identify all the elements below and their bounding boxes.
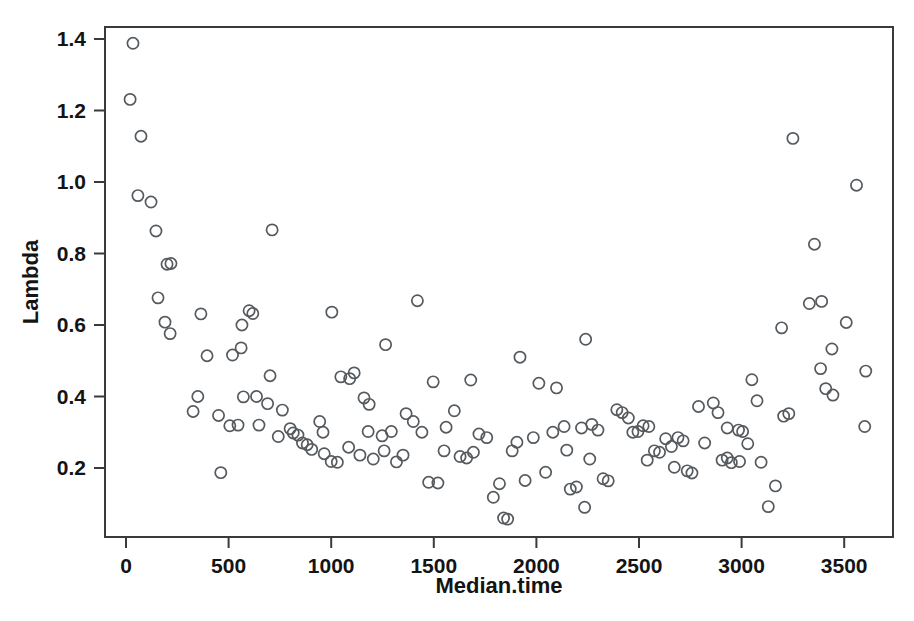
data-point <box>368 453 379 464</box>
data-point <box>533 378 544 389</box>
data-point <box>693 401 704 412</box>
data-point <box>826 343 837 354</box>
y-tick-label: 0.2 <box>57 456 86 479</box>
data-point <box>787 133 798 144</box>
data-point <box>277 404 288 415</box>
data-point <box>145 196 156 207</box>
y-tick-label: 0.8 <box>57 242 87 265</box>
y-axis-title: Lambda <box>18 239 43 324</box>
data-point <box>273 431 284 442</box>
x-tick-label: 3000 <box>718 554 765 577</box>
data-point <box>232 420 243 431</box>
y-axis-tick-labels: 0.20.40.60.81.01.21.4 <box>57 27 87 479</box>
data-point <box>267 224 278 235</box>
data-point <box>213 410 224 421</box>
data-point <box>391 456 402 467</box>
data-point <box>712 407 723 418</box>
y-tick-label: 0.4 <box>57 385 87 408</box>
data-point <box>547 427 558 438</box>
data-point <box>195 308 206 319</box>
data-point <box>380 339 391 350</box>
data-point <box>132 190 143 201</box>
data-point <box>755 457 766 468</box>
x-tick-label: 1000 <box>308 554 355 577</box>
data-point <box>317 427 328 438</box>
x-tick-label: 0 <box>120 554 132 577</box>
data-point <box>660 433 671 444</box>
data-point <box>251 391 262 402</box>
data-point <box>238 391 249 402</box>
data-point <box>264 370 275 381</box>
data-point <box>804 298 815 309</box>
data-point <box>746 374 757 385</box>
data-point <box>150 225 161 236</box>
data-point <box>363 426 374 437</box>
x-tick-label: 2500 <box>616 554 663 577</box>
data-point <box>159 317 170 328</box>
y-tick-label: 1.2 <box>57 99 86 122</box>
data-point <box>386 426 397 437</box>
data-point <box>127 38 138 49</box>
data-point <box>152 292 163 303</box>
x-tick-label: 3500 <box>821 554 868 577</box>
plot-frame <box>105 27 893 537</box>
data-point <box>528 432 539 443</box>
data-point <box>135 131 146 142</box>
data-point <box>438 445 449 456</box>
data-point <box>763 501 774 512</box>
scatter-plot-figure: 0500100015002000250030003500 0.20.40.60.… <box>0 0 914 621</box>
data-point <box>561 445 572 456</box>
data-point <box>699 437 710 448</box>
data-point <box>494 478 505 489</box>
data-point <box>776 322 787 333</box>
data-point <box>244 305 255 316</box>
data-point <box>584 453 595 464</box>
data-point <box>669 462 680 473</box>
x-tick-label: 500 <box>211 554 246 577</box>
data-point <box>488 492 499 503</box>
data-point <box>188 406 199 417</box>
data-point <box>326 307 337 318</box>
data-point <box>809 239 820 250</box>
data-point <box>580 334 591 345</box>
data-point <box>511 437 522 448</box>
data-point <box>192 391 203 402</box>
data-point <box>734 456 745 467</box>
data-point <box>860 366 871 377</box>
data-point <box>540 467 551 478</box>
data-point <box>576 422 587 433</box>
data-point <box>841 317 852 328</box>
data-point <box>408 416 419 427</box>
data-point <box>465 374 476 385</box>
x-axis-ticks <box>126 537 844 548</box>
data-point <box>306 444 317 455</box>
data-point <box>449 405 460 416</box>
data-point <box>165 328 176 339</box>
data-point <box>559 421 570 432</box>
x-axis-title: Median.time <box>435 573 562 598</box>
data-point <box>722 422 733 433</box>
data-point <box>262 398 273 409</box>
data-point <box>314 416 325 427</box>
data-point <box>851 180 862 191</box>
plot-canvas: 0500100015002000250030003500 0.20.40.60.… <box>0 0 914 621</box>
data-point <box>354 450 365 461</box>
data-point <box>751 395 762 406</box>
data-point <box>827 389 838 400</box>
data-point <box>816 296 827 307</box>
data-point <box>551 382 562 393</box>
data-point <box>215 467 226 478</box>
data-point <box>820 383 831 394</box>
data-point <box>742 438 753 449</box>
data-point <box>815 363 826 374</box>
y-axis-ticks <box>94 39 105 468</box>
data-point <box>343 442 354 453</box>
y-tick-label: 1.4 <box>57 27 87 50</box>
data-point <box>236 342 247 353</box>
y-tick-label: 1.0 <box>57 170 86 193</box>
data-point <box>247 308 258 319</box>
data-point <box>520 475 531 486</box>
data-point <box>441 422 452 433</box>
data-point <box>770 480 781 491</box>
data-point <box>412 295 423 306</box>
